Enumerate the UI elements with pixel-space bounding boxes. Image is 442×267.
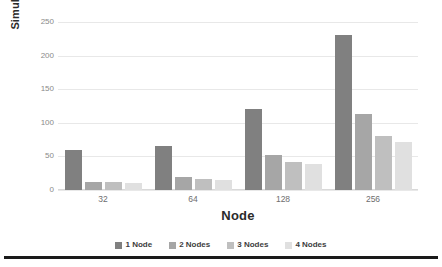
legend-item-4-nodes[interactable]: 4 Nodes [285,240,326,250]
y-tick-label-150: 150 [24,85,54,93]
y-axis-title-container: Simulation Time (s) [4,22,22,190]
x-axis-tick-labels: 3264128256 [58,193,418,207]
x-axis-title: Node [58,208,418,223]
bar-32-1-node [65,150,82,190]
bar-32-2-nodes [85,182,102,190]
legend-label: 2 Nodes [179,240,210,250]
bar-128-1-node [245,109,262,190]
legend-swatch-icon [227,242,234,249]
y-tick-label-200: 200 [24,52,54,60]
bar-64-2-nodes [175,177,192,190]
bar-256-4-nodes [395,142,412,190]
legend-label: 3 Nodes [237,240,268,250]
legend-swatch-icon [285,242,292,249]
bar-64-3-nodes [195,179,212,190]
bottom-divider [4,256,438,259]
legend-label: 1 Node [125,240,152,250]
x-tick-label-32: 32 [63,193,143,205]
legend-swatch-icon [115,242,122,249]
bar-64-4-nodes [215,180,232,190]
bar-chart: Simulation Time (s) 050100150200250 3264… [0,0,442,267]
bar-32-3-nodes [105,182,122,190]
bar-group-256 [328,22,418,190]
bar-256-3-nodes [375,136,392,190]
legend-item-2-nodes[interactable]: 2 Nodes [169,240,210,250]
bar-64-1-node [155,146,172,190]
chart-legend: 1 Node2 Nodes3 Nodes4 Nodes [0,238,442,252]
x-tick-label-256: 256 [333,193,413,205]
bar-32-4-nodes [125,183,142,190]
x-tick-label-64: 64 [153,193,233,205]
plot-area [58,22,418,190]
y-tick-label-100: 100 [24,119,54,127]
bar-256-1-node [335,35,352,190]
y-tick-label-50: 50 [24,152,54,160]
bar-group-64 [148,22,238,190]
bar-group-128 [238,22,328,190]
y-axis-tick-labels: 050100150200250 [22,22,54,190]
legend-item-1-node[interactable]: 1 Node [115,240,152,250]
y-tick-label-0: 0 [24,186,54,194]
y-tick-label-250: 250 [24,18,54,26]
bar-group-32 [58,22,148,190]
gridline-0 [58,190,418,191]
bar-128-4-nodes [305,164,322,190]
bar-128-3-nodes [285,162,302,190]
legend-item-3-nodes[interactable]: 3 Nodes [227,240,268,250]
legend-label: 4 Nodes [295,240,326,250]
bar-256-2-nodes [355,114,372,190]
bar-128-2-nodes [265,155,282,190]
x-tick-label-128: 128 [243,193,323,205]
legend-swatch-icon [169,242,176,249]
